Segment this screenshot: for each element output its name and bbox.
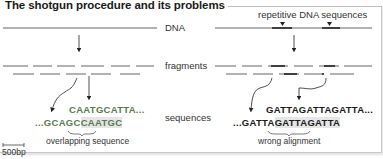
- label-scale: 500bp: [2, 147, 26, 157]
- right-seq-top: GATTAGATTAGATTA...: [266, 104, 373, 115]
- fragments-right: [215, 66, 372, 74]
- left-seq-prefix: ...GCAGC: [35, 117, 81, 128]
- label-wrong-alignment: wrong alignment: [258, 136, 320, 146]
- right-seq-prefix: ...GATTA: [233, 117, 275, 128]
- right-seq-overlap: GATTAGATTA: [275, 117, 341, 128]
- label-dna: DNA: [165, 22, 185, 33]
- fragments-left: [3, 66, 154, 74]
- left-seq-overlap: CAATGC: [81, 117, 123, 128]
- left-seq-top: CAATGCATTA...: [69, 104, 145, 115]
- right-seq-bottom: ...GATTAGATTAGATTA: [233, 117, 340, 128]
- label-fragments: fragments: [165, 60, 207, 71]
- label-repetitive: repetitive DNA sequences: [258, 9, 367, 20]
- left-seq-bottom: ...GCAGCCAATGC: [35, 117, 122, 128]
- label-overlapping: overlapping sequence: [46, 136, 129, 146]
- label-sequences: sequences: [165, 112, 211, 123]
